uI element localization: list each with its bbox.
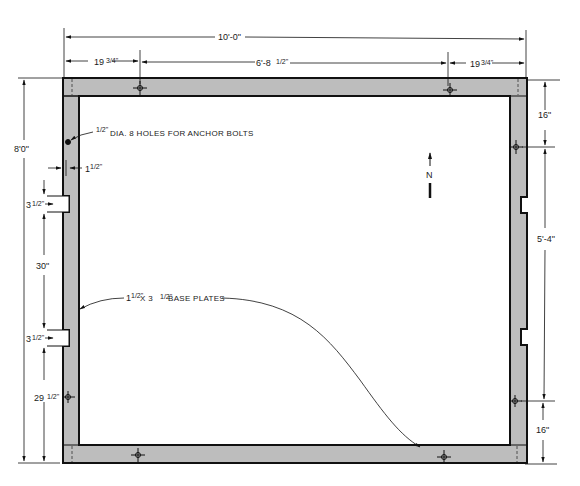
anchor-holes — [62, 81, 523, 464]
top-middle-dim-frac: 1/2" — [276, 58, 289, 65]
base-plates-note: 1 1/2" X 3 1/2" BASE PLATES — [80, 292, 420, 447]
anchor-note-text: DIA. 8 HOLES FOR ANCHOR BOLTS — [110, 129, 254, 138]
base-plate-drawing: 10'-0" 19 3/4" 6'-8 1/2" 19 3/4" 8'0" 1 … — [0, 0, 580, 486]
anchor-hole-icon — [66, 140, 71, 145]
plate-width-frac: 1/2" — [90, 163, 103, 170]
north-label: N — [426, 170, 433, 180]
overall-height-label: 8'0" — [14, 144, 29, 154]
top-middle-dim-whole: 6'-8 — [256, 58, 271, 68]
left-notch-top-frac: 1/2" — [32, 200, 45, 207]
left-notch-bottom-whole: 3 — [26, 334, 31, 344]
top-left-dim-whole: 19 — [94, 57, 104, 67]
right-top-label: 16" — [538, 110, 551, 120]
left-notch-bottom-frac: 1/2" — [32, 334, 45, 341]
right-bottom-label: 16" — [536, 425, 549, 435]
left-bottom-whole: 29 — [34, 393, 44, 403]
anchor-note-frac: 1/2" — [96, 126, 109, 133]
base-note-text: BASE PLATES — [168, 294, 225, 303]
right-middle-label: 5'-4" — [537, 234, 555, 244]
top-right-dim-whole: 19 — [470, 59, 480, 69]
overall-width-label: 10'-0" — [218, 32, 241, 42]
left-bottom-frac: 1/2" — [47, 393, 60, 400]
top-right-dim-frac: 3/4" — [481, 59, 494, 66]
left-gap-label: 30" — [36, 261, 49, 271]
top-left-dim-frac: 3/4" — [106, 57, 119, 64]
base-note-mid: X 3 — [140, 294, 153, 303]
north-arrow-icon: N — [426, 153, 433, 198]
anchor-bolt-note: 1/2" DIA. 8 HOLES FOR ANCHOR BOLTS — [71, 126, 254, 140]
left-notch-top-whole: 3 — [26, 200, 31, 210]
